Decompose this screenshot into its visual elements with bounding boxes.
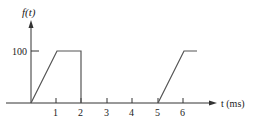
x-tick-label-3: 3: [104, 107, 109, 118]
x-tick-label-5: 5: [155, 107, 160, 118]
pulse-1: [31, 51, 81, 103]
x-tick-label-1: 1: [53, 107, 58, 118]
x-axis-arrow-icon: [209, 101, 217, 106]
x-tick-label-2: 2: [78, 107, 83, 118]
x-ticks: [56, 98, 183, 103]
y-axis-label: f(t): [22, 6, 36, 19]
x-tick-label-6: 6: [180, 107, 185, 118]
x-axis-label: t (ms): [221, 98, 245, 110]
y-tick-label-100: 100: [12, 46, 27, 57]
y-axis-arrow-icon: [29, 20, 34, 28]
pulse-2: [158, 51, 197, 103]
x-tick-label-4: 4: [129, 107, 134, 118]
waveform-diagram: f(t) 100 1 2 3 4 5 6 t (ms): [0, 0, 258, 122]
